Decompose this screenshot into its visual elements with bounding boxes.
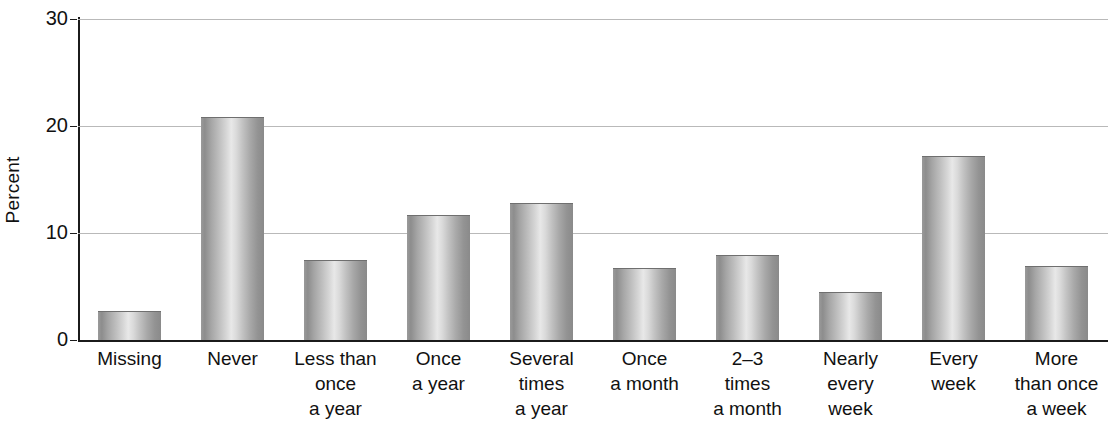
x-axis-tick-labels: MissingNeverLess thanoncea yearOncea yea… [78,346,1108,442]
y-tick-label: 30 [22,8,68,28]
x-tick-label: 2–3timesa month [692,346,804,421]
footer-partial-caption [0,433,1114,443]
bars-layer [78,19,1108,340]
x-tick-label: Oncea month [589,346,701,396]
x-tick-label: Severaltimesa year [486,346,598,421]
y-axis-tick [70,19,77,20]
x-tick-label: Never [177,346,289,371]
plot-area [78,19,1108,340]
x-tick-label: Oncea year [383,346,495,396]
y-axis-tick [70,126,77,127]
x-tick-label: Less thanoncea year [280,346,392,421]
bar [613,268,676,340]
y-tick-label: 10 [22,222,68,242]
bar [1025,266,1088,340]
bar [716,255,779,340]
x-tick-label: Morethan oncea week [1001,346,1113,421]
x-tick-label: Missing [74,346,186,371]
bar [98,311,161,340]
bar [510,203,573,340]
x-axis-line [78,340,1108,342]
y-tick-label: 0 [22,329,68,349]
y-axis-tick-labels: 0102030 [8,19,68,340]
y-axis-tick [70,233,77,234]
bar [304,260,367,340]
x-tick-label: Nearlyeveryweek [795,346,907,421]
bar [201,117,264,340]
bar [819,292,882,340]
bar-chart: Percent 0102030 MissingNeverLess thanonc… [0,0,1114,443]
y-tick-label: 20 [22,115,68,135]
bar [407,215,470,340]
x-tick-label: Everyweek [898,346,1010,396]
y-axis-tick [70,340,77,341]
bar [922,156,985,340]
